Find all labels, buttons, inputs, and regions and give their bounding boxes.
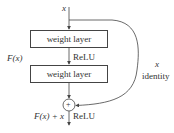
sum-symbol: + <box>66 100 71 110</box>
output-label: F(x) + x <box>34 111 64 121</box>
weight-layer-1-label: weight layer <box>47 34 92 44</box>
input-label: x <box>62 3 66 13</box>
residual-function-label: F(x) <box>7 53 23 63</box>
weight-layer-2: weight layer <box>30 65 108 83</box>
relu-mid-label: ReLU <box>73 52 95 62</box>
weight-layer-2-label: weight layer <box>47 69 92 79</box>
shortcut-var-label: x <box>155 59 159 69</box>
relu-out-label: ReLU <box>73 111 95 121</box>
shortcut-name-label: identity <box>142 71 170 81</box>
weight-layer-1: weight layer <box>30 30 108 48</box>
